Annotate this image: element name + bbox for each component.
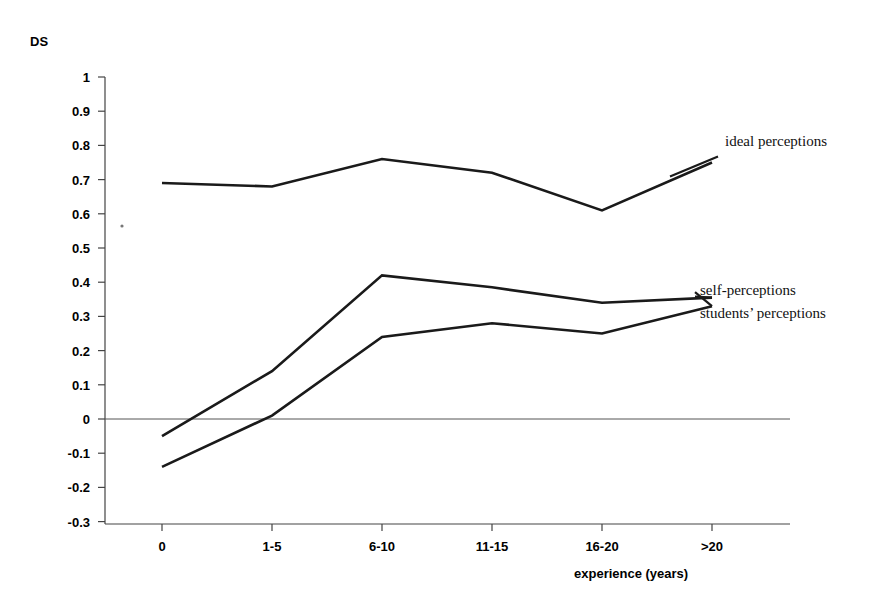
y-tick-label: 0.6	[72, 207, 90, 222]
x-tick-label: 1-5	[263, 539, 282, 554]
y-tick-label: 0.7	[72, 173, 90, 188]
line-chart: DS 10.90.80.70.60.50.40.30.20.10-0.1-0.2…	[0, 0, 887, 614]
y-tick-label: 0.2	[72, 344, 90, 359]
y-tick-label: -0.2	[68, 480, 90, 495]
y-tick-label: 0.4	[72, 275, 91, 290]
x-tick-label: 11-15	[476, 539, 509, 554]
y-tick-label: 0.8	[72, 138, 90, 153]
y-tick-label: 0	[83, 412, 90, 427]
series-label-2: students’ perceptions	[700, 305, 826, 321]
y-tick-label: 0.9	[72, 104, 90, 119]
y-tick-label: -0.3	[68, 515, 90, 530]
scan-artifact-speck	[120, 224, 123, 227]
x-tick-label: 0	[158, 539, 165, 554]
x-tick-label: >20	[701, 539, 723, 554]
x-tick-label: 6-10	[369, 539, 395, 554]
y-axis-title: DS	[30, 34, 48, 49]
y-tick-label: -0.1	[68, 446, 90, 461]
x-axis-title: experience (years)	[574, 566, 688, 581]
chart-container: DS 10.90.80.70.60.50.40.30.20.10-0.1-0.2…	[0, 0, 887, 614]
y-tick-label: 0.3	[72, 309, 90, 324]
y-tick-label: 0.1	[72, 378, 90, 393]
series-label-1: self-perceptions	[700, 282, 796, 298]
y-tick-label: 1	[83, 70, 90, 85]
y-tick-label: 0.5	[72, 241, 90, 256]
series-label-0: ideal perceptions	[725, 133, 827, 149]
x-tick-label: 16-20	[585, 539, 618, 554]
